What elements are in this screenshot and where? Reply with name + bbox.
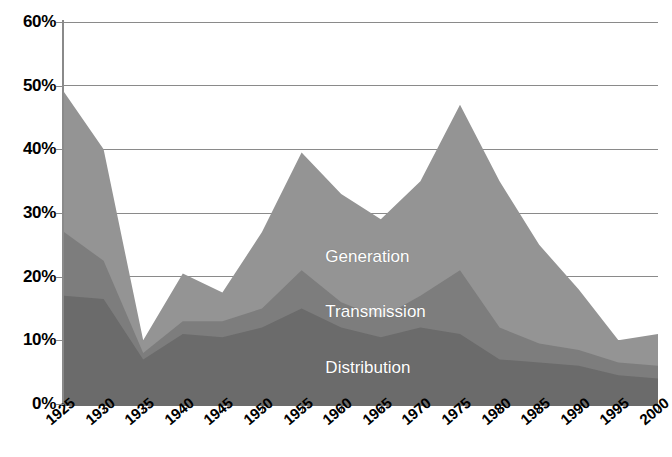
series-label-transmission: Transmission [325, 302, 425, 322]
x-tick-label: 1960 [319, 394, 355, 428]
y-tick-mark [56, 149, 64, 150]
x-tick-label: 1930 [82, 394, 118, 428]
y-tick-mark [56, 340, 64, 341]
series-label-distribution: Distribution [325, 358, 410, 378]
x-tick-label: 1985 [517, 394, 553, 428]
x-tick-label: 1945 [200, 394, 236, 428]
y-tick-mark [56, 22, 64, 23]
x-tick-label: 1925 [42, 394, 78, 428]
x-tick-label: 1935 [121, 394, 157, 428]
y-tick-mark [56, 86, 64, 87]
x-tick-label: 1950 [240, 394, 276, 428]
series-label-generation: Generation [325, 247, 409, 267]
y-tick-mark [56, 277, 64, 278]
x-tick-label: 1995 [596, 394, 632, 428]
x-tick-label: 1980 [478, 394, 514, 428]
y-tick-mark [56, 213, 64, 214]
y-tick-mark [56, 404, 64, 405]
x-tick-label: 1965 [359, 394, 395, 428]
x-tick-label: 1940 [161, 394, 197, 428]
x-tick-label: 1970 [398, 394, 434, 428]
x-tick-label: 1955 [280, 394, 316, 428]
x-tick-label: 2000 [636, 394, 672, 428]
x-tick-label: 1990 [557, 394, 593, 428]
x-tick-label: 1975 [438, 394, 474, 428]
